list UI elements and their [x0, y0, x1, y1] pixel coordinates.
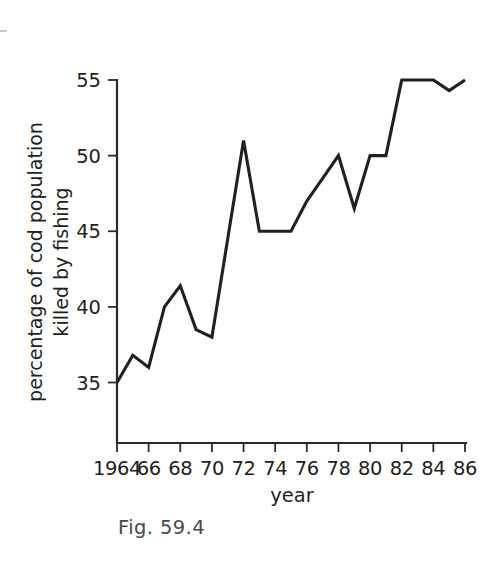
x-tick-label-1964: 1964: [93, 457, 141, 480]
y-tick-label-50: 50: [76, 145, 101, 168]
x-tick-label-78: 78: [326, 457, 350, 480]
y-tick-label-55: 55: [76, 69, 101, 92]
y-tick-label-45: 45: [76, 220, 101, 243]
figure-caption: Fig. 59.4: [118, 516, 205, 539]
y-axis-ticks: [108, 80, 117, 383]
y-tick-label-35: 35: [76, 372, 101, 395]
x-axis-tick-labels: 19646668707274767880828486: [93, 457, 477, 480]
x-axis-ticks: [117, 443, 465, 452]
y-axis-title-line2: killed by fishing: [50, 187, 72, 336]
y-axis-title: percentage of cod population killed by f…: [24, 122, 72, 402]
data-series-line: [117, 80, 465, 383]
y-axis-tick-labels: 3540455055: [76, 69, 101, 395]
line-chart: 3540455055 19646668707274767880828486 ye…: [0, 0, 501, 567]
x-tick-label-84: 84: [421, 457, 445, 480]
x-tick-label-68: 68: [168, 457, 192, 480]
x-tick-label-80: 80: [358, 457, 382, 480]
x-tick-label-72: 72: [232, 457, 256, 480]
x-tick-label-74: 74: [263, 457, 287, 480]
figure-root: 3540455055 19646668707274767880828486 ye…: [0, 0, 501, 567]
x-tick-label-76: 76: [295, 457, 319, 480]
y-tick-label-40: 40: [76, 296, 101, 319]
x-tick-label-66: 66: [137, 457, 161, 480]
x-tick-label-82: 82: [390, 457, 414, 480]
x-tick-label-70: 70: [200, 457, 224, 480]
y-axis-title-line1: percentage of cod population: [24, 122, 46, 402]
x-tick-label-86: 86: [453, 457, 477, 480]
x-axis-title: year: [270, 484, 314, 507]
